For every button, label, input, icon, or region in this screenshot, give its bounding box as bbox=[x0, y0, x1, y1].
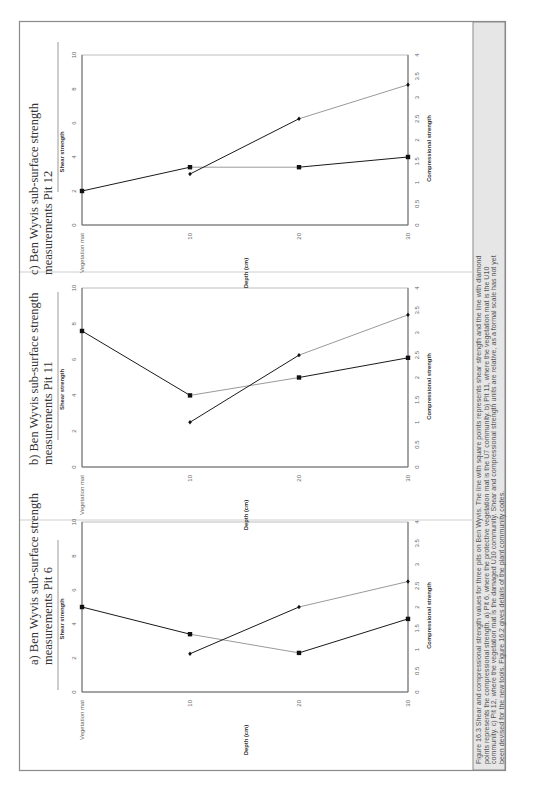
depth-tick: 10 bbox=[187, 699, 193, 706]
depth-tick: Vegetation mat bbox=[79, 475, 85, 515]
depth-tick: 30 bbox=[405, 232, 411, 239]
chart-panel-c: c) Ben Wyvis sub-surface strengthmeasure… bbox=[27, 42, 432, 288]
shear-tick: 0 bbox=[71, 465, 77, 469]
shear-tick: 8 bbox=[71, 321, 77, 325]
shear-tick: 4 bbox=[71, 393, 77, 397]
shear-tick: 10 bbox=[71, 518, 77, 525]
shear-square-marker bbox=[80, 605, 84, 609]
chart-title: a) Ben Wyvis sub-surface strength bbox=[27, 492, 41, 665]
depth-axis-label: Depth (cm) bbox=[243, 258, 249, 288]
shear-square-marker bbox=[80, 329, 84, 333]
caption-line: been devised for the new tools. Figure 1… bbox=[498, 491, 506, 764]
compressional-tick: 0.5 bbox=[414, 666, 420, 675]
depth-tick: Vegetation mat bbox=[79, 700, 85, 740]
chart-title: c) Ben Wyvis sub-surface strength bbox=[27, 102, 41, 275]
chart-title: measurements Pit 6 bbox=[41, 567, 55, 665]
depth-tick: 30 bbox=[405, 699, 411, 706]
compressional-tick: 0.5 bbox=[414, 440, 420, 449]
chart-title: measurements Pit 12 bbox=[41, 171, 55, 275]
shear-tick: 6 bbox=[71, 121, 77, 125]
compressional-tick: 4 bbox=[414, 53, 420, 57]
compressional-tick: 4 bbox=[414, 286, 420, 290]
shear-tick: 6 bbox=[71, 357, 77, 361]
compressional-tick: 1.5 bbox=[414, 156, 420, 165]
depth-tick: 10 bbox=[187, 474, 193, 481]
depth-axis-label: Depth (cm) bbox=[243, 500, 249, 530]
shear-axis-label: Shear strength bbox=[59, 131, 65, 172]
shear-tick: 0 bbox=[71, 690, 77, 694]
chart-panel-b: b) Ben Wyvis sub-surface strengthmeasure… bbox=[20, 272, 473, 530]
chart-panels: a) Ben Wyvis sub-surface strengthmeasure… bbox=[20, 42, 473, 755]
shear-square-marker bbox=[188, 632, 192, 636]
shear-tick: 2 bbox=[71, 429, 77, 433]
shear-square-marker bbox=[406, 617, 410, 621]
compressional-tick: 3.5 bbox=[414, 306, 420, 315]
shear-square-marker bbox=[406, 356, 410, 360]
shear-axis-label: Shear strength bbox=[59, 369, 65, 410]
shear-square-marker bbox=[188, 165, 192, 169]
depth-tick: 20 bbox=[296, 232, 302, 239]
plot-area bbox=[82, 55, 408, 225]
compressional-axis-label: Compressional strength bbox=[426, 582, 432, 649]
depth-tick: 20 bbox=[296, 474, 302, 481]
compressional-tick: 2 bbox=[414, 605, 420, 609]
compressional-tick: 1.5 bbox=[414, 623, 420, 632]
chart-title: measurements Pit 11 bbox=[41, 361, 55, 465]
plot-area bbox=[82, 522, 408, 692]
shear-tick: 10 bbox=[71, 284, 77, 291]
compressional-tick: 1 bbox=[414, 647, 420, 651]
compressional-tick: 2.5 bbox=[414, 114, 420, 123]
compressional-tick: 1.5 bbox=[414, 395, 420, 404]
compressional-tick: 0 bbox=[414, 465, 420, 469]
shear-tick: 4 bbox=[71, 155, 77, 159]
compressional-axis-label: Compressional strength bbox=[426, 115, 432, 182]
shear-tick: 8 bbox=[71, 87, 77, 91]
compressional-tick: 0.5 bbox=[414, 199, 420, 208]
depth-tick: 10 bbox=[187, 232, 193, 239]
depth-tick: Vegetation mat bbox=[79, 233, 85, 273]
depth-tick: 20 bbox=[296, 699, 302, 706]
shear-tick: 2 bbox=[71, 189, 77, 193]
depth-tick: 30 bbox=[405, 474, 411, 481]
compressional-tick: 3.5 bbox=[414, 538, 420, 547]
shear-tick: 4 bbox=[71, 622, 77, 626]
plot-area bbox=[82, 288, 408, 467]
chart-title: b) Ben Wyvis sub-surface strength bbox=[27, 292, 41, 465]
compressional-tick: 3 bbox=[414, 562, 420, 566]
shear-tick: 6 bbox=[71, 588, 77, 592]
compressional-tick: 3 bbox=[414, 95, 420, 99]
compressional-tick: 2.5 bbox=[414, 581, 420, 590]
shear-tick: 0 bbox=[71, 223, 77, 227]
shear-tick: 10 bbox=[71, 51, 77, 58]
compressional-tick: 1 bbox=[414, 420, 420, 424]
compressional-tick: 2.5 bbox=[414, 350, 420, 359]
shear-square-marker bbox=[297, 651, 301, 655]
shear-square-marker bbox=[297, 165, 301, 169]
compressional-tick: 2 bbox=[414, 375, 420, 379]
chart-panel-a: a) Ben Wyvis sub-surface strengthmeasure… bbox=[20, 492, 473, 755]
shear-square-marker bbox=[80, 189, 84, 193]
compressional-tick: 3 bbox=[414, 330, 420, 334]
depth-axis-label: Depth (cm) bbox=[243, 725, 249, 755]
shear-tick: 8 bbox=[71, 554, 77, 558]
figure-16-3: a) Ben Wyvis sub-surface strengthmeasure… bbox=[0, 0, 551, 791]
compressional-axis-label: Compressional strength bbox=[426, 353, 432, 420]
shear-axis-label: Shear strength bbox=[59, 598, 65, 639]
compressional-tick: 1 bbox=[414, 180, 420, 184]
compressional-tick: 0 bbox=[414, 223, 420, 227]
compressional-tick: 3.5 bbox=[414, 71, 420, 80]
shear-square-marker bbox=[406, 155, 410, 159]
shear-tick: 2 bbox=[71, 656, 77, 660]
shear-square-marker bbox=[297, 375, 301, 379]
shear-square-marker bbox=[188, 393, 192, 397]
compressional-tick: 0 bbox=[414, 690, 420, 694]
compressional-tick: 2 bbox=[414, 138, 420, 142]
